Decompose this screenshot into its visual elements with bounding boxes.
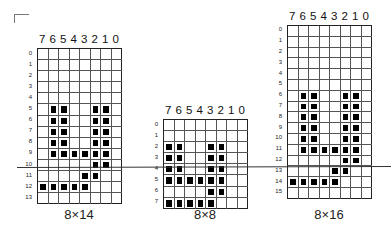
pixel-off bbox=[112, 104, 123, 115]
pixel-off bbox=[112, 116, 123, 127]
pixel-on bbox=[299, 134, 310, 145]
pixel-off bbox=[330, 58, 341, 69]
pixel-off bbox=[112, 138, 123, 149]
row-label: 0 bbox=[272, 26, 282, 32]
pixel-off bbox=[288, 37, 299, 48]
column-label: 3 bbox=[79, 33, 90, 45]
pixel-off bbox=[112, 171, 123, 182]
pixel-on bbox=[351, 156, 362, 167]
row-label: 3 bbox=[22, 83, 32, 89]
row-label: 11 bbox=[272, 145, 282, 151]
pixel-off bbox=[299, 80, 310, 91]
pixel-on bbox=[101, 116, 112, 127]
pixel-off bbox=[309, 80, 320, 91]
pixel-off bbox=[175, 131, 186, 142]
row-label: 0 bbox=[22, 50, 32, 56]
column-label: 2 bbox=[340, 10, 351, 22]
pixel-off bbox=[38, 49, 49, 60]
pixel-off bbox=[320, 69, 331, 80]
pixel-on bbox=[309, 145, 320, 156]
row-label: 7 bbox=[148, 198, 158, 204]
row-label: 9 bbox=[22, 149, 32, 155]
pixel-off bbox=[196, 142, 207, 153]
pixel-off bbox=[330, 102, 341, 113]
pixel-off bbox=[362, 26, 373, 37]
pixel-on bbox=[217, 187, 228, 198]
pixel-on bbox=[38, 182, 49, 193]
pixel-off bbox=[112, 182, 123, 193]
pixel-off bbox=[288, 134, 299, 145]
pixel-off bbox=[362, 177, 373, 188]
pixel-off bbox=[227, 187, 238, 198]
row-label: 4 bbox=[272, 70, 282, 76]
row-label: 12 bbox=[272, 156, 282, 162]
pixel-off bbox=[38, 160, 49, 171]
pixel-on bbox=[288, 177, 299, 188]
pixel-on bbox=[49, 138, 60, 149]
row-label: 1 bbox=[148, 132, 158, 138]
column-label: 6 bbox=[298, 10, 309, 22]
pixel-off bbox=[112, 93, 123, 104]
pixel-off bbox=[362, 156, 373, 167]
pixel-off bbox=[59, 160, 70, 171]
pixel-off bbox=[351, 58, 362, 69]
column-label: 6 bbox=[48, 33, 59, 45]
pixel-on bbox=[91, 104, 102, 115]
column-label: 1 bbox=[226, 104, 237, 116]
pixel-off bbox=[70, 104, 81, 115]
pixel-on bbox=[351, 102, 362, 113]
pixel-off bbox=[362, 80, 373, 91]
pixel-off bbox=[80, 60, 91, 71]
pixel-on bbox=[175, 175, 186, 186]
pixel-off bbox=[288, 156, 299, 167]
row-label: 4 bbox=[22, 94, 32, 100]
row-label: 6 bbox=[22, 116, 32, 122]
row-label: 1 bbox=[22, 61, 32, 67]
pixel-off bbox=[288, 69, 299, 80]
pixel-on bbox=[341, 145, 352, 156]
pixel-off bbox=[80, 82, 91, 93]
pixel-on bbox=[196, 175, 207, 186]
pixel-on bbox=[175, 153, 186, 164]
pixel-off bbox=[320, 134, 331, 145]
pixel-off bbox=[238, 131, 249, 142]
pixel-off bbox=[70, 127, 81, 138]
column-label: 2 bbox=[216, 104, 227, 116]
pixel-off bbox=[351, 166, 362, 177]
pixel-off bbox=[49, 171, 60, 182]
pixel-off bbox=[70, 49, 81, 60]
pixel-off bbox=[320, 156, 331, 167]
pixel-on bbox=[59, 104, 70, 115]
pixel-on bbox=[91, 160, 102, 171]
pixel-off bbox=[101, 93, 112, 104]
pixel-off bbox=[38, 71, 49, 82]
pixel-off bbox=[362, 145, 373, 156]
pixel-on bbox=[59, 116, 70, 127]
pixel-off bbox=[80, 138, 91, 149]
pixel-on bbox=[299, 91, 310, 102]
pixel-off bbox=[362, 188, 373, 199]
column-header: 76543210 bbox=[37, 33, 121, 45]
pixel-off bbox=[185, 142, 196, 153]
pixel-off bbox=[91, 49, 102, 60]
pixel-off bbox=[38, 82, 49, 93]
pixel-off bbox=[112, 71, 123, 82]
pixel-off bbox=[288, 188, 299, 199]
pixel-off bbox=[59, 93, 70, 104]
pixel-off bbox=[330, 188, 341, 199]
pixel-on bbox=[91, 116, 102, 127]
pixel-off bbox=[227, 131, 238, 142]
pixel-on bbox=[80, 182, 91, 193]
pixel-off bbox=[330, 48, 341, 59]
glyph-caption: 8×14 bbox=[49, 207, 109, 222]
pixel-off bbox=[227, 153, 238, 164]
pixel-off bbox=[351, 37, 362, 48]
pixel-off bbox=[341, 48, 352, 59]
column-label: 1 bbox=[100, 33, 111, 45]
pixel-off bbox=[101, 82, 112, 93]
pixel-off bbox=[330, 112, 341, 123]
pixel-off bbox=[101, 71, 112, 82]
pixel-off bbox=[112, 193, 123, 204]
pixel-off bbox=[70, 138, 81, 149]
pixel-off bbox=[362, 37, 373, 48]
